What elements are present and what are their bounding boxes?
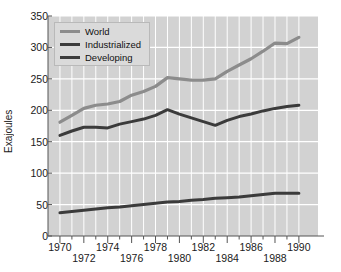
chart-figure: Exajoules 050100150200250300350 19701974… [0, 0, 341, 272]
legend-label-world: World [85, 26, 110, 37]
plot-area [0, 0, 341, 272]
legend-label-industrialized: Industrialized [85, 39, 141, 50]
chart-legend: World Industrialized Developing [54, 22, 150, 66]
legend-item-developing: Developing [58, 51, 146, 64]
legend-item-world: World [58, 25, 146, 38]
legend-item-industrialized: Industrialized [58, 38, 146, 51]
legend-swatch-world [60, 30, 80, 33]
legend-swatch-industrialized [60, 43, 80, 46]
legend-label-developing: Developing [85, 52, 133, 63]
legend-swatch-developing [60, 56, 80, 59]
